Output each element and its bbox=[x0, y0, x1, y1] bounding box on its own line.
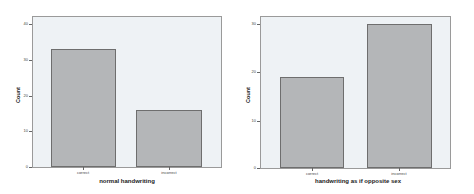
chart-opposite-sex-handwriting: 30 20 10 0 correct incorrect handwriting… bbox=[0, 0, 474, 194]
y-tick-label: 0 bbox=[246, 166, 256, 170]
bar-correct bbox=[280, 77, 344, 168]
y-axis-title: Count bbox=[245, 85, 251, 105]
x-axis-title: handwriting as if opposite sex bbox=[315, 178, 395, 184]
y-tick-label: 20 bbox=[246, 70, 256, 74]
x-tick-label: incorrect bbox=[384, 172, 414, 176]
y-tick bbox=[257, 121, 260, 122]
bar-incorrect bbox=[367, 24, 432, 168]
y-tick bbox=[257, 72, 260, 73]
y-tick bbox=[257, 24, 260, 25]
y-tick-label: 10 bbox=[246, 119, 256, 123]
y-tick-label: 30 bbox=[246, 22, 256, 26]
y-tick bbox=[257, 168, 260, 169]
x-tick-label: correct bbox=[297, 172, 327, 176]
